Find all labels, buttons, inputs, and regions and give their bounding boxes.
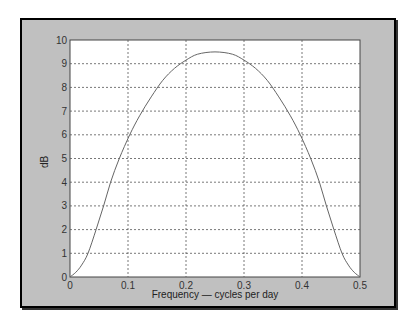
x-tick-label: 0 — [67, 280, 73, 291]
y-axis-label: dB — [39, 156, 50, 169]
y-axis-ticks: 012345678910 — [56, 35, 68, 283]
y-tick-label: 1 — [61, 248, 67, 259]
y-tick-label: 2 — [61, 224, 67, 235]
y-tick-label: 6 — [61, 129, 67, 140]
y-tick-label: 4 — [61, 177, 67, 188]
y-tick-label: 8 — [61, 82, 67, 93]
y-tick-label: 10 — [56, 35, 68, 46]
x-axis-label: Frequency — cycles per day — [152, 289, 279, 300]
y-tick-label: 3 — [61, 200, 67, 211]
x-tick-label: 0.5 — [353, 280, 367, 291]
y-tick-label: 7 — [61, 106, 67, 117]
x-tick-label: 0.4 — [295, 280, 309, 291]
y-tick-label: 9 — [61, 58, 67, 69]
chart: 012345678910 00.10.20.30.40.5 Frequency … — [0, 0, 414, 324]
x-tick-label: 0.1 — [121, 280, 135, 291]
y-tick-label: 5 — [61, 153, 67, 164]
